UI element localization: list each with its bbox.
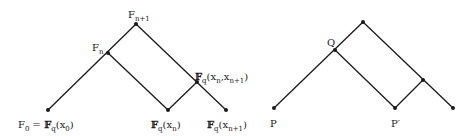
left-diagram-lines [48,24,226,110]
label-p-prime: P′ [391,118,401,129]
point-f0 [46,108,50,112]
label-fq-xn: 𝔽q(xn) [151,119,181,133]
point-right-apex [361,20,365,24]
left-connector-edge [168,82,197,110]
point-right-junction [421,78,425,82]
label-p: P [270,118,277,129]
left-diagram-points [46,22,228,112]
label-q: Q [327,37,335,48]
label-fn: Fn [92,42,104,56]
point-fq-xn1 [224,108,228,112]
diagram-canvas: Fn+1 Fn 𝔽q(xn,xn+1) F0 = 𝔽q(x0) 𝔽q(xn) 𝔽… [0,0,476,136]
right-connector-edge [395,80,423,108]
right-inner-edge [335,50,395,108]
label-fn1: Fn+1 [128,9,150,23]
right-diagram-points [272,20,455,110]
right-diagram-lines [274,22,453,108]
label-fq-xn-xn1: 𝔽q(xn,xn+1) [195,71,248,85]
point-p-prime [393,106,397,110]
label-f0: F0 = 𝔽q(x0) [18,119,74,133]
point-p [272,106,276,110]
label-fq-xn1: 𝔽q(xn+1) [207,119,247,133]
point-fq-xn [166,108,170,112]
point-q [333,48,337,52]
point-fn [106,51,110,55]
left-inner-edge [108,53,168,110]
point-right-bottom [451,106,455,110]
